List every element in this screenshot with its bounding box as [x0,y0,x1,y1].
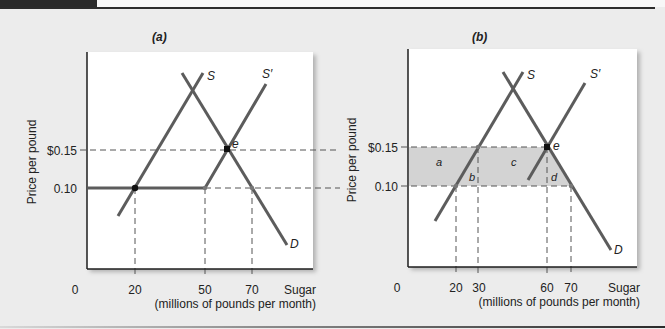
panel-a-point-e [224,146,230,152]
panel-b-title: (b) [472,30,487,44]
footer-rule [0,326,665,328]
panel-a-point-50 [203,186,207,190]
panel-b-origin: 0 [394,281,401,295]
panel-b-area-c: c [511,156,517,168]
panel-b-xtick-60: 60 [540,281,554,295]
panel-b-label-s-prime: S′ [590,67,601,81]
panel-b-label-s: S [527,68,535,82]
panel-b-x-axis-label: Sugar [608,281,640,295]
panel-a-title: (a) [152,30,167,44]
panel-b-y-axis-label: Price per pound [345,118,359,203]
panel-a-label-s: S [207,69,215,83]
panel-b-area-a: a [436,156,442,168]
panel-b-point-30 [476,145,480,149]
panel-a-point-70 [250,186,254,190]
panel-b: (b) S S′ D [345,30,640,309]
panel-b-point-e [544,144,550,150]
panel-a-label-d: D [290,237,299,251]
panel-b-area-d: d [551,171,558,183]
panel-a-xtick-50: 50 [198,283,212,297]
panel-a: (a) S S′ D e $0.15 [25,30,340,311]
panel-a-plot-area [87,52,313,269]
panel-a-point-20 [132,185,138,191]
panel-a-ytick-015: $0.15 [47,144,77,158]
panel-a-origin: 0 [72,283,79,297]
panel-b-xtick-20: 20 [449,281,463,295]
panel-a-x-axis-label: Sugar [284,283,316,297]
panel-a-xtick-70: 70 [245,283,259,297]
panel-a-x-axis-units: (millions of pounds per month) [155,297,316,311]
panel-b-point-20 [454,184,458,188]
panel-b-ytick-015: $0.15 [368,141,398,155]
panel-a-label-s-prime: S′ [262,67,273,81]
panel-b-area-b: b [469,171,475,183]
panel-a-xtick-20: 20 [128,283,142,297]
panel-b-x-axis-units: (millions of pounds per month) [479,295,640,309]
figure: (a) S S′ D e $0.15 [0,0,665,329]
panel-b-point-70 [569,184,573,188]
panel-b-ytick-010: 0.10 [375,180,399,194]
panel-b-xtick-70: 70 [564,281,578,295]
panel-a-ytick-010: 0.10 [54,182,78,196]
panel-a-label-e: e [232,137,239,151]
panel-b-label-e: e [553,139,560,153]
panel-b-label-d: D [614,243,623,257]
panel-a-y-axis-label: Price per pound [25,120,39,205]
panel-b-xtick-30: 30 [472,281,486,295]
